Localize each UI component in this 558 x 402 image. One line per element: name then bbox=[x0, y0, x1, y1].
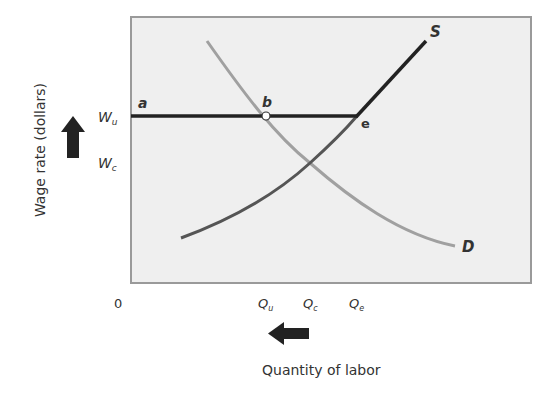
point-e-label: e bbox=[361, 116, 370, 131]
quantity-left-arrow-icon bbox=[268, 322, 309, 345]
supply-curve-label: S bbox=[430, 23, 441, 41]
demand-curve-label: D bbox=[462, 238, 474, 256]
y-axis-label: Wage rate (dollars) bbox=[32, 83, 48, 217]
x-tick-qu: Qu bbox=[258, 296, 273, 313]
point-b-label: b bbox=[262, 94, 272, 110]
x-axis-label: Quantity of labor bbox=[262, 362, 381, 378]
y-tick-wu: Wu bbox=[98, 109, 118, 127]
wage-up-arrow-icon bbox=[61, 116, 85, 158]
labor-market-union-wage-chart: a b e S D Wage rate (dollars) Wu Wc 0 Qu… bbox=[0, 0, 558, 402]
x-tick-qe: Qe bbox=[349, 296, 364, 313]
y-tick-wc: Wc bbox=[98, 155, 117, 173]
origin-label: 0 bbox=[114, 296, 122, 311]
x-tick-qc: Qc bbox=[303, 296, 318, 313]
point-b-marker bbox=[262, 112, 270, 120]
point-a-label: a bbox=[138, 95, 147, 111]
